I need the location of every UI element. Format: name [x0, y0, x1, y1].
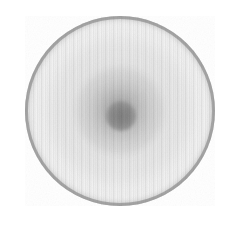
grayscale-image-canvas [0, 0, 245, 240]
disc-core-spot [106, 101, 136, 131]
